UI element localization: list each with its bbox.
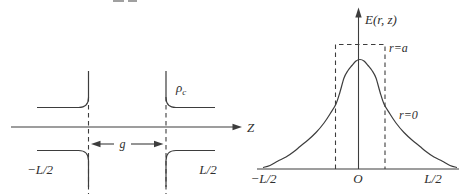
electrode-top-left	[37, 71, 89, 108]
aperture-field-rect	[336, 45, 386, 170]
z-axis-arrow-icon	[233, 124, 243, 130]
gaussian-curve	[263, 60, 457, 168]
plot-origin-label: O	[353, 171, 363, 186]
left-boundary-label: −L/2	[27, 162, 54, 177]
gap-width-label: g	[120, 137, 126, 151]
field-axis-arrow-icon	[355, 8, 361, 18]
right-panel: E(r, z) r=a r=0 −L/2 O L/2	[250, 8, 459, 186]
electrode-top-right	[166, 71, 215, 108]
left-panel: Z g ρc −L/2 L/2	[11, 71, 255, 194]
figure-svg: Z g ρc −L/2 L/2	[0, 0, 462, 196]
charge-density-label: ρc	[175, 80, 186, 97]
cropped-text-fragment	[113, 0, 137, 2]
z-axis-label: Z	[247, 120, 255, 135]
plot-left-boundary-label: −L/2	[250, 171, 277, 186]
axis-curve-label: r=0	[399, 108, 418, 122]
plot-right-boundary-label: L/2	[423, 171, 442, 186]
right-boundary-label: L/2	[198, 162, 217, 177]
gap-width-arrow	[91, 141, 164, 147]
figure: Z g ρc −L/2 L/2	[0, 0, 462, 196]
field-axis-label: E(r, z)	[364, 12, 397, 27]
aperture-curve-label: r=a	[389, 41, 408, 55]
